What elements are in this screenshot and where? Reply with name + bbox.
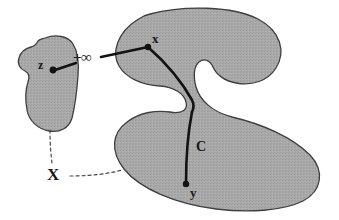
leader-line-to-big-region [70,170,122,176]
label-point-y: y [190,186,197,199]
point-y-marker [183,181,189,187]
label-point-x: x [152,32,159,45]
leader-line-to-small-region [50,130,52,163]
big-region-shape [115,8,320,211]
label-set-x: X [47,166,59,183]
label-path-c: C [196,140,206,154]
point-z-marker [50,67,57,74]
point-x-marker [145,44,151,50]
small-region-shape [18,36,78,131]
figure-canvas: x y C z +∞ X [0,0,339,220]
label-point-z: z [38,59,43,71]
label-infinity: +∞ [73,50,91,65]
diagram-svg [0,0,339,220]
